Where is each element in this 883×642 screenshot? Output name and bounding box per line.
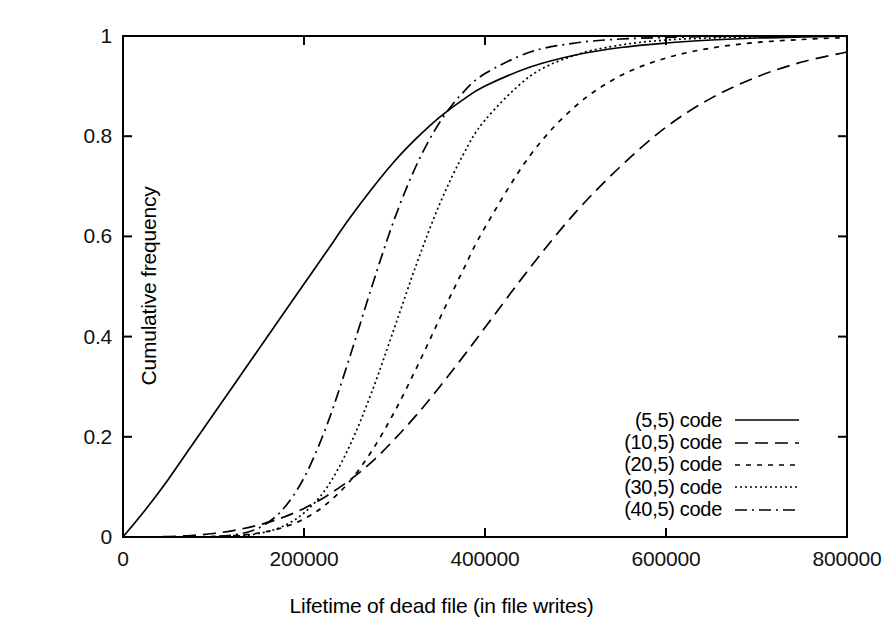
legend-item-label: (30,5) code	[624, 476, 722, 499]
legend-item[interactable]: (20,5) code	[585, 454, 800, 476]
y-tick-label: 0.2	[60, 425, 112, 449]
x-tick-label: 400000	[451, 547, 520, 571]
plot-area	[0, 0, 883, 642]
cdf-chart-figure: 0200000400000600000800000 00.20.40.60.81…	[0, 0, 883, 642]
legend-item[interactable]: (10,5) code	[585, 431, 800, 453]
legend-line-sample	[734, 436, 800, 450]
legend-line-sample	[734, 458, 800, 472]
y-tick-label: 0.6	[60, 224, 112, 248]
legend-line-sample	[734, 503, 800, 517]
legend-item[interactable]: (5,5) code	[585, 409, 800, 431]
legend-line-sample	[734, 413, 800, 427]
legend-item[interactable]: (30,5) code	[585, 476, 800, 498]
x-tick-label: 200000	[270, 547, 339, 571]
y-tick-label: 0.8	[60, 124, 112, 148]
y-axis-label: Cumulative frequency	[137, 186, 160, 385]
legend-item-label: (40,5) code	[624, 498, 722, 521]
legend-item-label: (10,5) code	[624, 431, 722, 454]
legend-item-label: (5,5) code	[635, 409, 722, 432]
y-axis-label-wrapper: Cumulative frequency	[137, 36, 173, 537]
x-tick-label: 0	[117, 547, 128, 571]
legend-item-label: (20,5) code	[624, 453, 722, 476]
y-tick-label: 1	[60, 24, 112, 48]
x-tick-label: 800000	[813, 547, 882, 571]
x-axis-label: Lifetime of dead file (in file writes)	[0, 594, 883, 618]
y-tick-label: 0	[60, 525, 112, 549]
legend-item[interactable]: (40,5) code	[585, 499, 800, 521]
x-tick-label: 600000	[632, 547, 701, 571]
chart-legend: (5,5) code(10,5) code(20,5) code(30,5) c…	[585, 409, 800, 521]
y-tick-label: 0.4	[60, 325, 112, 349]
legend-line-sample	[734, 480, 800, 494]
